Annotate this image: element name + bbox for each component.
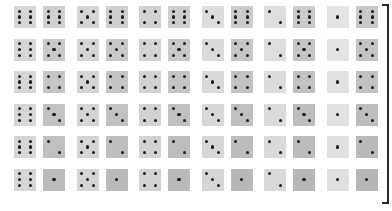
die-pip xyxy=(308,15,311,18)
die-pip xyxy=(18,145,21,148)
dice-pair-cell-r1-c2 xyxy=(77,6,128,28)
right-axis-spine-bottom-cap xyxy=(382,202,389,204)
dice-pair-cell-r6-c3 xyxy=(139,169,190,191)
die-left-value-6 xyxy=(14,136,36,158)
die-pip xyxy=(92,107,95,110)
die-right-value-1 xyxy=(168,169,190,191)
die-pip xyxy=(297,42,300,45)
dice-pair-cell-r3-c6 xyxy=(327,71,378,93)
die-pip xyxy=(143,140,146,143)
dice-pair-cell-r3-c3 xyxy=(139,71,190,93)
die-right-value-4 xyxy=(168,71,190,93)
die-pip xyxy=(371,21,374,24)
die-pip xyxy=(365,178,368,181)
die-pip xyxy=(234,54,237,57)
die-pip xyxy=(92,42,95,45)
die-pip xyxy=(29,42,32,45)
die-left-value-1 xyxy=(327,169,349,191)
die-pip xyxy=(29,48,32,51)
dice-pair-cell-r5-c4 xyxy=(202,136,253,158)
die-pip xyxy=(297,10,300,13)
die-left-value-3 xyxy=(202,6,224,28)
die-pip xyxy=(80,140,83,143)
die-right-value-3 xyxy=(106,104,128,126)
die-pip xyxy=(92,151,95,154)
die-pip xyxy=(205,172,208,175)
die-pip xyxy=(234,21,237,24)
die-right-value-4 xyxy=(43,71,65,93)
die-right-value-2 xyxy=(231,136,253,158)
dice-pair-cell-r5-c6 xyxy=(327,136,378,158)
die-left-value-6 xyxy=(14,169,36,191)
die-pip xyxy=(297,86,300,89)
die-pip xyxy=(86,15,89,18)
die-right-value-5 xyxy=(293,39,315,61)
die-pip xyxy=(172,42,175,45)
dice-pair-cell-r3-c4 xyxy=(202,71,253,93)
die-pip xyxy=(359,75,362,78)
die-pip xyxy=(279,151,282,154)
dice-pair-cell-r5-c5 xyxy=(264,136,315,158)
die-pip xyxy=(92,21,95,24)
die-pip xyxy=(246,10,249,13)
die-pip xyxy=(80,54,83,57)
die-pip xyxy=(58,42,61,45)
die-pip xyxy=(279,86,282,89)
dice-pair-cell-r4-c4 xyxy=(202,104,253,126)
die-pip xyxy=(177,113,180,116)
die-pip xyxy=(143,54,146,57)
die-pip xyxy=(109,75,112,78)
die-left-value-4 xyxy=(139,71,161,93)
die-pip xyxy=(92,140,95,143)
die-pip xyxy=(58,21,61,24)
dice-pair-cell-r3-c5 xyxy=(264,71,315,93)
die-pip xyxy=(302,48,305,51)
die-pip xyxy=(109,54,112,57)
dice-pair-cell-r4-c1 xyxy=(14,104,65,126)
die-pip xyxy=(308,86,311,89)
die-pip xyxy=(268,10,271,13)
die-pip xyxy=(29,178,32,181)
die-pip xyxy=(246,86,249,89)
die-pip xyxy=(217,21,220,24)
die-left-value-6 xyxy=(14,71,36,93)
die-pip xyxy=(109,10,112,13)
die-pip xyxy=(29,54,32,57)
die-pip xyxy=(58,54,61,57)
die-pip xyxy=(246,54,249,57)
die-left-value-5 xyxy=(77,136,99,158)
die-pip xyxy=(308,42,311,45)
die-pip xyxy=(115,48,118,51)
die-pip xyxy=(359,107,362,110)
die-pip xyxy=(86,80,89,83)
dice-pair-cell-r6-c6 xyxy=(327,169,378,191)
die-pip xyxy=(154,140,157,143)
die-pip xyxy=(371,15,374,18)
die-pip xyxy=(268,140,271,143)
die-pip xyxy=(154,184,157,187)
die-left-value-5 xyxy=(77,104,99,126)
die-pip xyxy=(121,119,124,122)
die-pip xyxy=(211,113,214,116)
die-pip xyxy=(143,151,146,154)
die-pip xyxy=(143,86,146,89)
die-pip xyxy=(211,178,214,181)
die-right-value-6 xyxy=(293,6,315,28)
die-left-value-6 xyxy=(14,6,36,28)
die-pip xyxy=(371,75,374,78)
die-pip xyxy=(172,21,175,24)
die-pip xyxy=(359,140,362,143)
die-pip xyxy=(47,140,50,143)
die-right-value-3 xyxy=(168,104,190,126)
die-pip xyxy=(154,75,157,78)
die-pip xyxy=(18,184,21,187)
die-right-value-2 xyxy=(43,136,65,158)
die-pip xyxy=(121,75,124,78)
die-pip xyxy=(18,86,21,89)
die-right-value-6 xyxy=(168,6,190,28)
dice-pair-cell-r4-c5 xyxy=(264,104,315,126)
die-pip xyxy=(29,140,32,143)
die-pip xyxy=(371,54,374,57)
die-pip xyxy=(109,15,112,18)
die-pip xyxy=(47,54,50,57)
